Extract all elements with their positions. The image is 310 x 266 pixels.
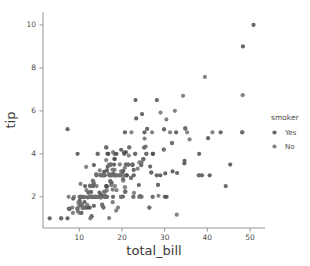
data-point <box>142 146 146 150</box>
data-point <box>228 163 232 167</box>
data-point <box>142 136 146 140</box>
data-point <box>145 127 149 131</box>
data-point <box>132 168 136 172</box>
data-point <box>111 150 115 154</box>
data-point <box>115 173 119 177</box>
data-point <box>121 177 125 181</box>
data-point <box>151 152 155 156</box>
data-point <box>114 188 118 192</box>
data-point <box>71 211 75 215</box>
data-point <box>112 168 116 172</box>
data-point <box>147 205 151 209</box>
data-point <box>109 183 113 187</box>
data-point <box>173 109 177 113</box>
data-point <box>100 204 104 208</box>
data-point <box>111 195 115 199</box>
x-axis-title: total_bill <box>126 243 181 258</box>
data-point <box>224 184 228 188</box>
data-point <box>241 93 245 97</box>
data-point <box>67 207 71 211</box>
data-point <box>92 204 96 208</box>
data-point <box>111 200 115 204</box>
figure-background <box>0 0 310 266</box>
data-point <box>144 152 148 156</box>
data-point <box>126 163 130 167</box>
data-point <box>80 195 84 199</box>
data-point <box>137 183 141 187</box>
data-point <box>168 130 172 134</box>
data-point <box>155 173 159 177</box>
data-point <box>208 173 212 177</box>
data-point <box>185 130 189 134</box>
data-point <box>142 130 146 134</box>
data-point <box>134 116 138 120</box>
data-point <box>133 98 137 102</box>
data-point <box>109 173 113 177</box>
data-point <box>133 152 137 156</box>
data-point <box>92 163 96 167</box>
data-point <box>118 173 122 177</box>
data-point <box>83 184 87 188</box>
data-point <box>197 152 201 156</box>
data-point <box>156 194 160 198</box>
data-point <box>89 184 93 188</box>
data-point <box>119 195 123 199</box>
data-point <box>94 172 98 176</box>
data-point <box>104 158 108 162</box>
data-point <box>112 157 116 161</box>
data-point <box>114 208 118 212</box>
legend-marker-yes <box>272 130 276 134</box>
y-tick-label: 10 <box>26 20 36 29</box>
data-point <box>123 130 127 134</box>
data-point <box>148 164 152 168</box>
data-point <box>129 130 133 134</box>
data-point <box>175 213 179 217</box>
y-tick-label: 8 <box>31 63 36 72</box>
data-point <box>155 98 159 102</box>
data-point <box>108 179 112 183</box>
data-point <box>75 152 79 156</box>
x-tick-label: 40 <box>203 233 213 242</box>
data-point <box>119 148 123 152</box>
x-tick-label: 30 <box>160 233 170 242</box>
data-point <box>118 162 122 166</box>
data-point <box>107 216 111 220</box>
data-point <box>59 216 63 220</box>
legend-label-yes[interactable]: Yes <box>284 129 297 137</box>
legend-label-no[interactable]: No <box>285 143 295 151</box>
data-point <box>76 201 80 205</box>
data-point <box>170 141 174 145</box>
data-point <box>93 195 97 199</box>
data-point <box>219 130 223 134</box>
data-point <box>101 173 105 177</box>
data-point <box>139 195 143 199</box>
scatter-plot-figure: 1020304050 246810 total_bill tip smoker … <box>0 0 310 266</box>
data-point <box>158 110 162 114</box>
data-point <box>85 203 89 207</box>
data-point <box>131 195 135 199</box>
y-tick-label: 4 <box>31 149 36 158</box>
legend-title: smoker <box>271 113 299 122</box>
data-point <box>105 188 109 192</box>
data-point <box>163 195 167 199</box>
data-point <box>141 157 145 161</box>
data-point <box>72 195 76 199</box>
data-point <box>206 136 210 140</box>
data-point <box>164 117 168 121</box>
data-point <box>75 207 79 211</box>
data-point <box>97 190 101 194</box>
data-point <box>182 159 186 163</box>
data-point <box>65 216 69 220</box>
x-tick-label: 50 <box>245 233 255 242</box>
data-point <box>87 195 91 199</box>
data-point <box>131 163 135 167</box>
data-point <box>241 44 245 48</box>
data-point <box>183 126 187 130</box>
data-point <box>132 191 136 195</box>
chart-canvas: 1020304050 246810 total_bill tip smoker … <box>0 0 310 266</box>
y-tick-label: 6 <box>31 106 36 115</box>
data-point <box>240 130 244 134</box>
data-point <box>156 183 160 187</box>
data-point <box>174 130 178 134</box>
data-point <box>187 137 191 141</box>
